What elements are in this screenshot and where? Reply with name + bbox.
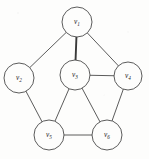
node-v1: v1 (62, 7, 92, 37)
node-layer: v1v2v3v4v5v6 (4, 7, 142, 150)
edge-v2-v5 (26, 91, 42, 121)
node-subscript-v4: 4 (128, 75, 131, 81)
edge-v1-v4 (87, 33, 118, 66)
node-subscript-v1: 1 (77, 21, 80, 27)
node-v6: v6 (92, 120, 122, 150)
edge-v1-v2 (30, 32, 66, 67)
node-v4: v4 (114, 62, 142, 90)
node-v3: v3 (60, 60, 90, 90)
edge-v1-v3 (76, 37, 77, 60)
edge-v3-v5 (55, 89, 69, 121)
graph-figure: v1v2v3v4v5v6 (0, 0, 149, 159)
node-subscript-v6: 6 (107, 134, 110, 140)
node-subscript-v5: 5 (49, 134, 52, 140)
node-subscript-v2: 2 (19, 77, 22, 83)
edge-v4-v6 (112, 89, 123, 121)
edge-v3-v6 (82, 88, 100, 122)
node-v5: v5 (34, 120, 64, 150)
node-subscript-v3: 3 (75, 74, 78, 80)
node-v2: v2 (4, 63, 34, 93)
graph-canvas: v1v2v3v4v5v6 (0, 0, 149, 159)
